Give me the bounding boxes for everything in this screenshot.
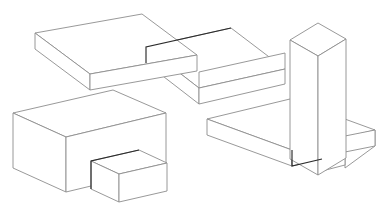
column-vertical <box>290 23 346 175</box>
drawing-canvas <box>0 0 383 211</box>
column-left-face <box>290 40 318 175</box>
block-small <box>91 150 167 202</box>
column-right-face <box>318 39 346 175</box>
isometric-figures-svg <box>0 0 383 211</box>
figure-top-left <box>35 14 285 104</box>
figure-bottom-left <box>13 90 167 202</box>
